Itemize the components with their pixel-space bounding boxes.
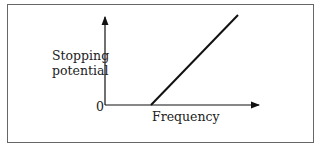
- y-label-line2: potential: [52, 63, 104, 78]
- graph: [0, 0, 320, 149]
- data-line: [151, 15, 238, 105]
- x-axis-label: Frequency: [152, 109, 220, 124]
- origin-label: 0: [96, 99, 104, 114]
- y-label-line1: Stopping: [52, 48, 104, 63]
- y-axis-label: Stopping potential: [52, 48, 104, 78]
